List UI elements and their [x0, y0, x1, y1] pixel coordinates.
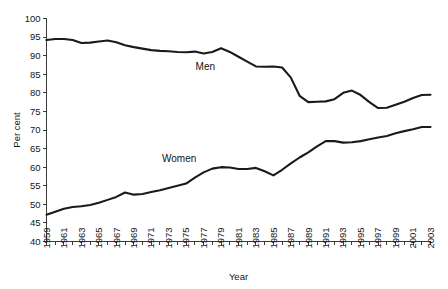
series-annotations: MenWomen [162, 61, 215, 165]
x-tick-label: 1995 [355, 227, 366, 248]
y-tick-label: 45 [30, 217, 41, 228]
x-axis-tick-labels: 1959196119631965196719691971197319751977… [41, 227, 436, 248]
x-tick-label: 1959 [41, 227, 52, 248]
x-tick-label: 1979 [215, 227, 226, 248]
x-tick-label: 1987 [285, 227, 296, 248]
x-tick-label: 1983 [250, 227, 261, 248]
y-tick-label: 90 [30, 50, 41, 61]
y-tick-label: 75 [30, 106, 41, 117]
y-tick-label: 50 [30, 199, 41, 210]
x-tick-label: 1973 [163, 227, 174, 248]
line-chart: 404550556065707580859095100 195919611963… [0, 0, 448, 289]
y-axis-title: Per cent [11, 112, 22, 148]
x-tick-label: 2003 [425, 227, 436, 248]
series-line-women [47, 127, 431, 215]
x-tick-label: 1977 [198, 227, 209, 248]
x-tick-label: 2001 [407, 227, 418, 248]
y-tick-label: 65 [30, 143, 41, 154]
y-tick-label: 95 [30, 31, 41, 42]
x-tick-label: 1981 [233, 227, 244, 248]
x-tick-label: 1991 [320, 227, 331, 248]
series-line-men [47, 39, 431, 108]
series-label-women: Women [162, 153, 196, 164]
x-tick-label: 1997 [372, 227, 383, 248]
y-tick-label: 60 [30, 162, 41, 173]
x-tick-label: 1967 [111, 227, 122, 248]
x-tick-label: 1985 [268, 227, 279, 248]
y-tick-label: 40 [30, 236, 41, 247]
y-tick-label: 55 [30, 180, 41, 191]
x-tick-label: 1993 [337, 227, 348, 248]
y-axis-tick-labels: 404550556065707580859095100 [25, 13, 41, 247]
x-tick-label: 1963 [76, 227, 87, 248]
series-lines [47, 39, 431, 215]
series-label-men: Men [196, 61, 215, 72]
x-tick-label: 1965 [93, 227, 104, 248]
y-tick-label: 85 [30, 69, 41, 80]
y-tick-label: 80 [30, 87, 41, 98]
x-tick-label: 1971 [145, 227, 156, 248]
x-tick-label: 1969 [128, 227, 139, 248]
x-tick-label: 1999 [390, 227, 401, 248]
x-tick-label: 1975 [180, 227, 191, 248]
y-tick-label: 70 [30, 124, 41, 135]
y-tick-label: 100 [25, 13, 41, 24]
x-tick-label: 1961 [58, 227, 69, 248]
x-axis-title: Year [229, 271, 248, 282]
chart-canvas: 404550556065707580859095100 195919611963… [0, 0, 448, 289]
x-tick-label: 1989 [303, 227, 314, 248]
